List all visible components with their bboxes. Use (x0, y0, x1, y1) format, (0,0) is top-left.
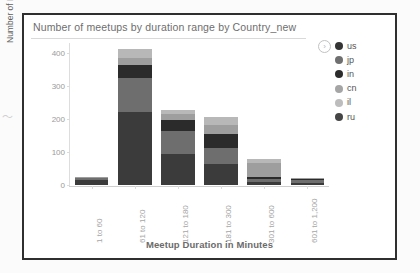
legend-swatch-in (335, 70, 343, 78)
bar-column[interactable] (204, 117, 238, 185)
bar-segment-il[interactable] (118, 49, 152, 58)
x-axis-title: Meetup Duration in Minutes (24, 239, 395, 250)
scan-artifact-left: 〜 (2, 108, 13, 124)
page-title: Number of meetups by duration range by C… (33, 21, 296, 33)
bar-segment-cn[interactable] (247, 163, 281, 178)
legend-item-il[interactable]: il (335, 96, 387, 110)
bar-segment-jp[interactable] (204, 148, 238, 165)
y-tick-label: 0 (61, 181, 65, 190)
x-tick-mark (178, 186, 179, 189)
bar-segment-jp[interactable] (118, 78, 152, 112)
legend-item-us[interactable]: us (335, 39, 387, 53)
x-tick-mark (92, 186, 93, 189)
bar-segment-jp[interactable] (161, 131, 195, 154)
x-tick-mark (135, 186, 136, 189)
x-tick-label: 601 to 1,200 (310, 199, 319, 243)
bar-column[interactable] (291, 178, 325, 185)
y-tick-label: 300 (52, 81, 65, 90)
title-divider (31, 38, 306, 39)
legend-label-il: il (347, 98, 351, 107)
y-axis-title: Number of Meetups (5, 0, 15, 43)
x-tick-mark (264, 186, 265, 189)
bar-column[interactable] (75, 177, 109, 185)
y-tick-label: 400 (52, 48, 65, 57)
legend-item-cn[interactable]: cn (335, 82, 387, 96)
bar-segment-us[interactable] (75, 180, 109, 185)
x-tick-label: 301 to 600 (267, 205, 276, 243)
legend-item-in[interactable]: in (335, 67, 387, 81)
bar-segment-in[interactable] (161, 120, 195, 131)
legend-label-cn: cn (347, 84, 357, 93)
bar-series-group (70, 43, 329, 185)
legend-item-ru[interactable]: ru (335, 110, 387, 124)
legend-label-ru: ru (347, 113, 355, 122)
bar-segment-cn[interactable] (204, 125, 238, 134)
x-tick-label: 61 to 120 (138, 210, 147, 243)
x-axis-line (69, 186, 329, 187)
legend-label-us: us (347, 42, 357, 51)
page-background: 〜 Number of meetups by duration range by… (0, 0, 420, 273)
bar-segment-us[interactable] (204, 164, 238, 185)
bar-segment-us[interactable] (247, 182, 281, 185)
legend-item-jp[interactable]: jp (335, 53, 387, 67)
bar-segment-us[interactable] (291, 183, 325, 185)
bar-column[interactable] (161, 110, 195, 185)
x-tick-mark (221, 186, 222, 189)
chart-legend: us jp in cn il ru (335, 39, 387, 124)
legend-swatch-cn (335, 85, 343, 93)
legend-label-in: in (347, 70, 354, 79)
bar-segment-il[interactable] (204, 117, 238, 125)
legend-swatch-jp (335, 56, 343, 64)
y-tick-label: 100 (52, 147, 65, 156)
legend-swatch-ru (335, 113, 343, 121)
plot-area: 0100200300400 (70, 43, 329, 185)
y-tick-mark (67, 185, 70, 186)
visualization-card: Number of meetups by duration range by C… (22, 13, 397, 260)
bar-segment-cn[interactable] (118, 58, 152, 65)
legend-label-jp: jp (347, 56, 354, 65)
x-tick-label: 181 to 300 (224, 205, 233, 243)
bar-segment-in[interactable] (204, 134, 238, 148)
bar-segment-in[interactable] (118, 65, 152, 78)
bar-column[interactable] (118, 49, 152, 185)
bar-segment-us[interactable] (118, 112, 152, 185)
legend-swatch-us (335, 42, 343, 50)
x-tick-mark (307, 186, 308, 189)
bar-segment-us[interactable] (161, 154, 195, 185)
x-tick-label: 121 to 180 (181, 205, 190, 243)
y-tick-label: 200 (52, 114, 65, 123)
legend-swatch-il (335, 99, 343, 107)
bar-column[interactable] (247, 159, 281, 185)
